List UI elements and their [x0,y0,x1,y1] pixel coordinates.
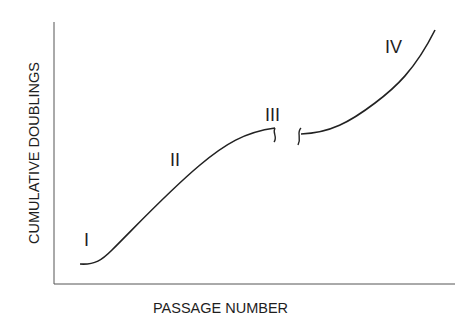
x-axis-label: PASSAGE NUMBER [153,300,288,316]
phase-label-1: I [84,230,89,250]
chart: I II III IV PASSAGE NUMBER CUMULATIVE DO… [0,0,474,322]
axis-break-right [298,128,301,145]
y-axis-label: CUMULATIVE DOUBLINGS [26,62,42,244]
curve-segment-1 [80,128,275,264]
curve-segment-2 [301,30,435,134]
phase-label-4: IV [385,37,402,57]
phase-label-2: II [170,150,180,170]
phase-label-3: III [265,105,280,125]
axis-break-left [274,128,275,142]
